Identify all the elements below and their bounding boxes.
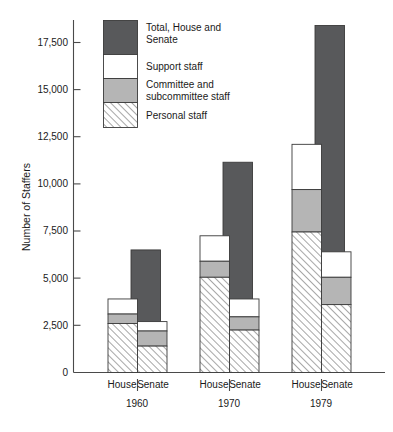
legend-label-total-line1: Total, House and — [146, 22, 221, 33]
committee-segment-1970-senate — [230, 317, 260, 330]
support-segment-1960-house — [108, 299, 138, 314]
legend-swatch-support — [104, 55, 138, 79]
x-label-1960-house: House — [108, 379, 137, 390]
legend-label-total-line2: Senate — [146, 34, 178, 45]
bars-layer — [108, 26, 351, 373]
legend-label-committee-line2: subcommittee staff — [146, 91, 230, 102]
y-tick-label-10000: 10,000 — [37, 178, 68, 189]
committee-segment-1960-senate — [138, 331, 168, 346]
committee-segment-1970-house — [200, 261, 230, 277]
y-axis-tick-labels: 17,500 15,000 12,500 10,000 7,500 5,000 … — [37, 37, 68, 378]
x-axis-labels: House Senate 1960 House Senate 1970 Hous… — [108, 379, 354, 409]
committee-segment-1960-house — [108, 314, 138, 323]
legend-label-personal: Personal staff — [146, 110, 207, 121]
x-label-1970-house: House — [200, 379, 229, 390]
y-tick-label-5000: 5,000 — [43, 273, 68, 284]
y-tick-label-15000: 15,000 — [37, 84, 68, 95]
legend-swatch-personal — [104, 103, 138, 128]
chart-container: Number of Staffers 17,500 15,000 12,500 … — [0, 0, 393, 432]
personal-segment-1970-house — [200, 277, 230, 372]
support-segment-1970-house — [200, 236, 230, 261]
personal-segment-1970-senate — [230, 330, 260, 372]
x-label-1979-house: House — [292, 379, 321, 390]
x-group-label-1960: 1960 — [126, 398, 149, 409]
legend-swatch-committee — [104, 79, 138, 103]
support-segment-1970-senate — [230, 299, 260, 317]
legend-label-support: Support staff — [146, 61, 203, 72]
y-tick-label-2500: 2,500 — [43, 320, 68, 331]
personal-segment-1979-senate — [322, 305, 352, 373]
personal-segment-1979-house — [292, 232, 322, 372]
legend-swatch-total — [104, 21, 138, 55]
legend-label-committee-line1: Committee and — [146, 79, 214, 90]
x-label-1960-senate: Senate — [137, 379, 169, 390]
y-tick-label-17500: 17,500 — [37, 37, 68, 48]
support-segment-1979-house — [292, 144, 322, 189]
x-label-1970-senate: Senate — [229, 379, 261, 390]
staffers-stacked-bar-chart: Number of Staffers 17,500 15,000 12,500 … — [0, 0, 393, 432]
committee-segment-1979-house — [292, 190, 322, 232]
y-tick-label-0: 0 — [62, 367, 68, 378]
y-tick-label-7500: 7,500 — [43, 225, 68, 236]
legend: Total, House and Senate Support staff Co… — [104, 21, 230, 128]
y-axis-title: Number of Staffers — [20, 163, 32, 251]
y-tick-label-12500: 12,500 — [37, 131, 68, 142]
support-segment-1960-senate — [138, 322, 168, 331]
x-group-label-1979: 1979 — [310, 398, 333, 409]
committee-segment-1979-senate — [322, 277, 352, 304]
personal-segment-1960-house — [108, 323, 138, 372]
x-group-label-1970: 1970 — [218, 398, 241, 409]
personal-segment-1960-senate — [138, 346, 168, 372]
y-axis-ticks — [74, 43, 81, 326]
support-segment-1979-senate — [322, 252, 352, 277]
x-label-1979-senate: Senate — [321, 379, 353, 390]
